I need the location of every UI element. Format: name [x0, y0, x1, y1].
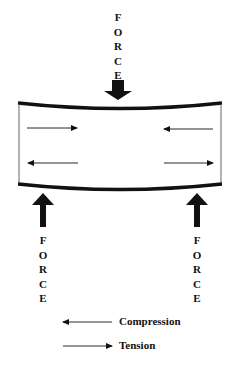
beam-bottom-edge [18, 184, 222, 190]
beam-top-edge [18, 103, 222, 109]
right-force-label: F O R C E [190, 233, 204, 306]
right-force-arrow [186, 193, 208, 227]
top-force-arrow [104, 80, 132, 100]
top-force-label: F O R C E [111, 10, 125, 83]
beam [18, 103, 222, 190]
left-force-arrow [32, 193, 54, 227]
legend-tension-label: Tension [119, 339, 155, 351]
left-force-label: F O R C E [36, 233, 50, 306]
legend-compression-label: Compression [119, 315, 181, 327]
